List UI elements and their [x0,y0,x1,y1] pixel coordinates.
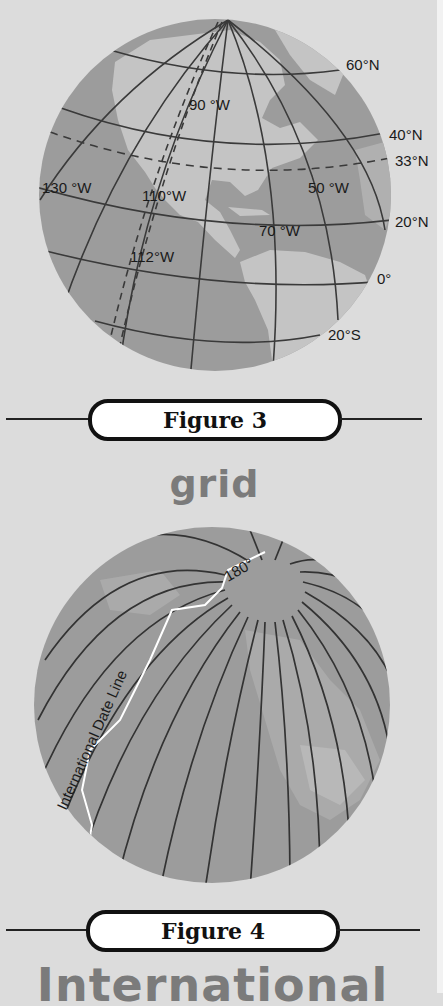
caption-rule-left [6,929,90,931]
label-112w: 112°W [130,248,175,265]
label-90w: 90 °W [189,96,231,113]
label-60n: 60°N [346,56,380,73]
label-33n: 33°N [395,152,429,169]
figure-4-globe: 180° International Date Line [0,520,437,890]
caption-rule-left [6,418,90,420]
caption-rule-right [336,929,420,931]
page-edge-strip [437,0,443,993]
label-0: 0° [377,270,391,287]
label-40n: 40°N [389,126,423,143]
label-110w: 110°W [142,187,187,204]
figure-3-globe: 60°N 40°N 33°N 20°N 0° 20°S 90 °W 130 °W… [0,0,437,380]
label-20n: 20°N [395,213,429,230]
figure-4-caption-row: Figure 4 [0,908,437,952]
label-130w: 130 °W [42,179,92,196]
caption-rule-right [340,418,422,420]
figure-3-caption: Figure 3 [88,399,342,441]
label-20s: 20°S [328,326,361,343]
figure-4-caption: Figure 4 [86,910,340,952]
label-70w: 70 °W [259,222,301,239]
label-50w: 50 °W [308,179,350,196]
figure-3-caption-row: Figure 3 [0,397,437,441]
figure-3-term: grid [0,462,433,506]
figure-4-term: International [0,958,431,1006]
